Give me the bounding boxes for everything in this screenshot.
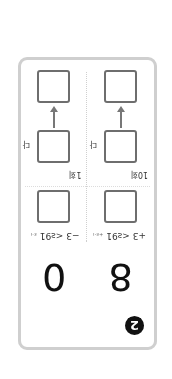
column-sublabel: ε-ı xyxy=(31,232,37,238)
column-label: −3 <ƨ91 ε-ı xyxy=(31,231,80,241)
arrow-down-icon xyxy=(120,108,122,128)
side-mark: 다 xyxy=(24,140,31,151)
count-label: 10회 xyxy=(131,170,148,181)
column-left: +3 <ƨ91 +ε-ı 10회 다 xyxy=(88,61,155,241)
square-box[interactable] xyxy=(38,70,71,103)
column-right: −3 <ƨ91 ε-ı 1회 다 xyxy=(21,61,88,241)
arrow-down-icon xyxy=(54,108,56,128)
column-label: +3 <ƨ91 +ε-ı xyxy=(93,231,146,241)
rotated-stage: 2 8 0 +3 <ƨ91 +ε-ı 10회 다 −3 <ƨ91 ε-ı 1 xyxy=(0,0,172,379)
square-box[interactable] xyxy=(38,190,71,223)
square-box[interactable] xyxy=(104,190,137,223)
side-mark: 다 xyxy=(90,140,97,151)
number-left: 8 xyxy=(88,257,155,297)
card: 2 8 0 +3 <ƨ91 +ε-ı 10회 다 −3 <ƨ91 ε-ı 1 xyxy=(18,57,157,350)
square-box[interactable] xyxy=(38,130,71,163)
number-right: 0 xyxy=(21,257,88,297)
column-sublabel: +ε-ı xyxy=(93,232,103,238)
number-row: 8 0 xyxy=(21,257,154,297)
count-label: 1회 xyxy=(69,170,81,181)
square-box[interactable] xyxy=(104,70,137,103)
step-badge: 2 xyxy=(125,316,144,335)
square-box[interactable] xyxy=(104,130,137,163)
